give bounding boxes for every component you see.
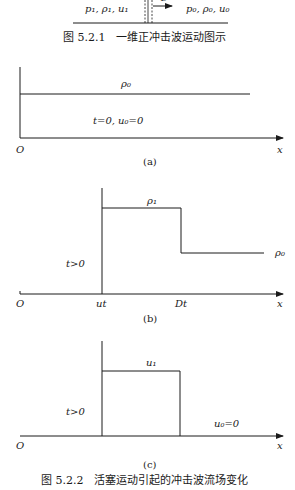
piston-position-label: ut — [96, 299, 106, 309]
panel-c-tag: (c) — [143, 460, 156, 470]
shock-position-label: Dt — [175, 299, 187, 309]
figure-521-caption: 图 5.2.1 一维正冲击波运动图示 — [63, 32, 227, 44]
origin-label: O — [16, 441, 24, 451]
rho1-label: ρ₁ — [147, 196, 157, 206]
panel-a-condition: t=0, u₀=0 — [93, 116, 143, 126]
x-axis-label: x — [277, 441, 283, 451]
shock-speed-label: D — [161, 0, 167, 4]
panel-b-condition: t>0 — [66, 259, 85, 269]
panel-a-tag: (a) — [143, 157, 157, 167]
panel-c-condition: t>0 — [66, 407, 85, 417]
panel-a-graphic — [20, 67, 283, 138]
figure-522-caption: 图 5.2.2 活塞运动引起的冲击波流场变化 — [41, 475, 249, 487]
right-state-label: p₀, ρ₀, u₀ — [186, 4, 229, 14]
panel-b-tag: (b) — [143, 314, 157, 324]
origin-label: O — [16, 145, 24, 155]
rho0-label: ρ₀ — [275, 248, 285, 258]
rho0-label: ρ₀ — [121, 79, 131, 89]
x-axis-label: x — [277, 299, 283, 309]
u1-label: u₁ — [146, 358, 156, 368]
origin-label: O — [16, 299, 24, 309]
u0-rest-label: u₀=0 — [214, 419, 239, 429]
left-state-label: p₁, ρ₁, u₁ — [85, 4, 128, 14]
x-axis-label: x — [277, 145, 283, 155]
diagram-lines — [0, 0, 295, 490]
panel-c-graphic — [20, 341, 283, 436]
